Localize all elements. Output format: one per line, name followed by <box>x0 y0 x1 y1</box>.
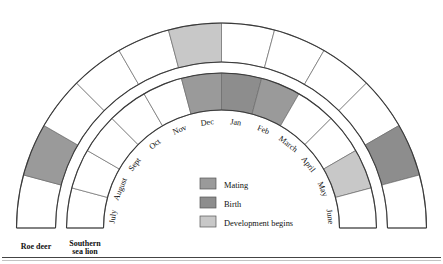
month-label-april: April <box>300 155 318 175</box>
series-label-group: Roe deerSouthernsea lion <box>21 239 102 256</box>
legend-label-development-begins: Development begins <box>224 219 293 228</box>
month-label-may: May <box>316 180 330 198</box>
month-label-nov: Nov <box>171 123 188 137</box>
legend-swatch-birth[interactable] <box>200 197 216 208</box>
series-label-southern-sea-lion-line2: sea lion <box>72 247 98 256</box>
chart-canvas: JulyAugustSeptOctNovDecJanFebMarchAprilM… <box>0 0 443 264</box>
month-label-oct: Oct <box>147 137 162 152</box>
month-label-dec: Dec <box>200 117 215 128</box>
month-label-june: June <box>325 209 336 225</box>
segment-outer-dec[interactable] <box>168 23 221 68</box>
annual-cycle-arc-chart: JulyAugustSeptOctNovDecJanFebMarchAprilM… <box>0 0 443 264</box>
legend-swatch-development-begins[interactable] <box>200 216 216 227</box>
legend-swatch-mating[interactable] <box>200 178 216 189</box>
footer-rules <box>2 258 441 261</box>
month-label-feb: Feb <box>256 123 271 136</box>
legend-label-birth: Birth <box>224 200 242 209</box>
month-label-jan: Jan <box>230 117 242 127</box>
month-label-sept: Sept <box>127 155 143 173</box>
series-label-roe-deer: Roe deer <box>21 242 52 251</box>
segment-outer-june[interactable] <box>382 175 427 228</box>
legend: MatingBirthDevelopment begins <box>200 178 293 228</box>
legend-label-mating: Mating <box>224 181 249 190</box>
month-label-july: July <box>108 208 119 224</box>
